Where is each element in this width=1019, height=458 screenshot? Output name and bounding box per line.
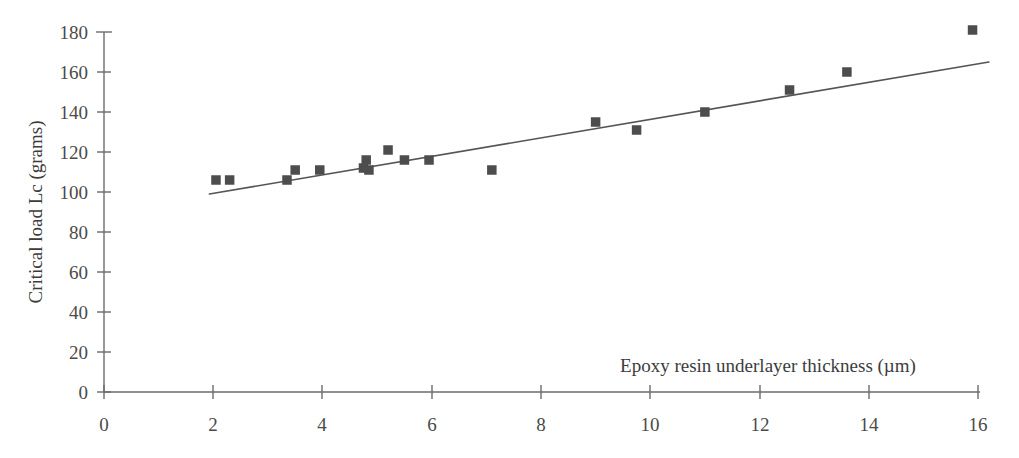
- x-tick-label-2: 2: [208, 414, 218, 435]
- x-tick-label-0: 0: [99, 414, 109, 435]
- y-tick-label-120: 120: [60, 142, 89, 163]
- y-tick-label-80: 80: [69, 222, 88, 243]
- data-point-group: [211, 25, 977, 185]
- x-axis-group: 0 2 4 6 8 10 12 14 16 Epoxy resin underl…: [99, 355, 987, 435]
- chart-page: 180 160 140 120 100 80 60 40 20 0 Critic…: [0, 0, 1019, 458]
- data-point: [282, 175, 292, 185]
- y-tick-label-0: 0: [79, 382, 89, 403]
- y-tick-label-180: 180: [60, 22, 89, 43]
- y-axis-group: 180 160 140 120 100 80 60 40 20 0 Critic…: [25, 22, 112, 403]
- x-tick-label-6: 6: [427, 414, 437, 435]
- x-tick-label-12: 12: [751, 414, 770, 435]
- data-point: [361, 155, 371, 165]
- y-tick-label-20: 20: [69, 342, 88, 363]
- trend-line: [209, 62, 988, 194]
- data-point: [424, 155, 434, 165]
- data-point: [383, 145, 393, 155]
- y-tick-label-40: 40: [69, 302, 88, 323]
- y-axis-title: Critical load Lc (grams): [25, 120, 47, 303]
- scatter-chart: 180 160 140 120 100 80 60 40 20 0 Critic…: [0, 0, 1019, 458]
- y-tick-label-160: 160: [60, 62, 89, 83]
- x-tick-label-10: 10: [641, 414, 660, 435]
- data-point: [364, 165, 374, 175]
- x-tick-label-16: 16: [969, 414, 988, 435]
- data-point: [487, 165, 497, 175]
- x-axis-title: Epoxy resin underlayer thickness (µm): [620, 355, 916, 377]
- data-point: [591, 117, 601, 127]
- data-point: [968, 25, 978, 35]
- y-tick-label-60: 60: [69, 262, 88, 283]
- data-point: [700, 107, 710, 117]
- data-point: [290, 165, 300, 175]
- x-tick-labels: 0 2 4 6 8 10 12 14 16: [99, 414, 987, 435]
- data-point: [632, 125, 642, 135]
- x-tick-label-14: 14: [860, 414, 880, 435]
- data-point: [211, 175, 221, 185]
- data-point: [785, 85, 795, 95]
- data-point: [842, 67, 852, 77]
- y-tick-labels: 180 160 140 120 100 80 60 40 20 0: [60, 22, 89, 403]
- x-tick-label-4: 4: [317, 414, 327, 435]
- data-point: [225, 175, 235, 185]
- x-tick-label-8: 8: [536, 414, 546, 435]
- data-point: [315, 165, 325, 175]
- data-point: [400, 155, 410, 165]
- y-tick-label-140: 140: [60, 102, 89, 123]
- y-tick-label-100: 100: [60, 182, 89, 203]
